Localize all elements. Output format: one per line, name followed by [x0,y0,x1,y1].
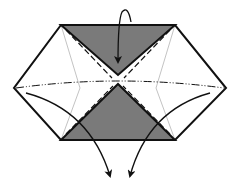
origami-diagram [0,0,234,189]
